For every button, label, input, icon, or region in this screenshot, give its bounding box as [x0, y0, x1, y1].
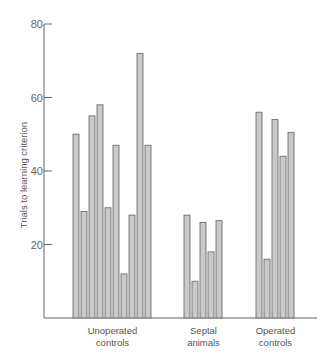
- bar-group: [73, 53, 151, 318]
- bar: [288, 132, 294, 318]
- bar: [97, 105, 103, 318]
- bar: [216, 221, 222, 318]
- bar: [121, 274, 127, 318]
- bar: [81, 211, 87, 318]
- bar: [200, 222, 206, 318]
- bar: [264, 259, 270, 318]
- bar: [272, 120, 278, 318]
- y-tick-label: 80: [31, 18, 43, 30]
- y-axis: 20406080: [31, 18, 52, 318]
- bar: [129, 215, 135, 318]
- bar-chart: 20406080 UnoperatedcontrolsSeptalanimals…: [0, 0, 331, 358]
- y-axis-title: Trials to learning criterion: [18, 122, 29, 228]
- bar-group: [184, 215, 222, 318]
- y-tick-label: 40: [31, 165, 43, 177]
- y-tick-label: 60: [31, 92, 43, 104]
- bar-group: [256, 112, 294, 318]
- bar: [89, 116, 95, 318]
- category-label: Septalanimals: [187, 325, 220, 348]
- bar: [113, 145, 119, 318]
- bar: [192, 281, 198, 318]
- bar: [137, 53, 143, 318]
- category-label: Operatedcontrols: [256, 325, 296, 348]
- bar: [145, 145, 151, 318]
- category-labels: UnoperatedcontrolsSeptalanimalsOperatedc…: [88, 325, 296, 348]
- bars: [73, 53, 294, 318]
- bar: [256, 112, 262, 318]
- bar: [184, 215, 190, 318]
- category-label: Unoperatedcontrols: [88, 325, 138, 348]
- bar: [208, 252, 214, 318]
- bar: [280, 156, 286, 318]
- bar: [105, 208, 111, 318]
- bar: [73, 134, 79, 318]
- y-tick-label: 20: [31, 239, 43, 251]
